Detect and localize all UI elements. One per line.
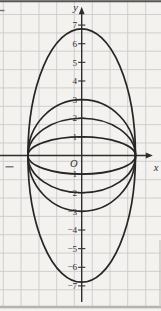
ellipse-family-plot: 7654321−1−2−3−4−5−6−7 y x O bbox=[0, 0, 161, 311]
y-axis-tick-label: −4 bbox=[67, 225, 77, 235]
y-axis-tick-label: −5 bbox=[67, 244, 77, 254]
y-axis-tick-label: −6 bbox=[67, 262, 77, 272]
y-axis-tick-label: 4 bbox=[73, 76, 78, 86]
x-axis-label: x bbox=[153, 162, 159, 173]
graph-figure: 7654321−1−2−3−4−5−6−7 y x O bbox=[0, 0, 161, 311]
origin-label: O bbox=[70, 158, 78, 169]
y-axis-arrowhead-icon bbox=[79, 7, 85, 14]
y-axis-tick-label: 6 bbox=[73, 39, 78, 49]
y-axis-tick-label: 5 bbox=[73, 58, 78, 68]
y-axis-tick-label: −7 bbox=[67, 281, 77, 291]
x-axis-arrowhead-icon bbox=[146, 153, 153, 159]
y-axis-label: y bbox=[72, 2, 78, 13]
